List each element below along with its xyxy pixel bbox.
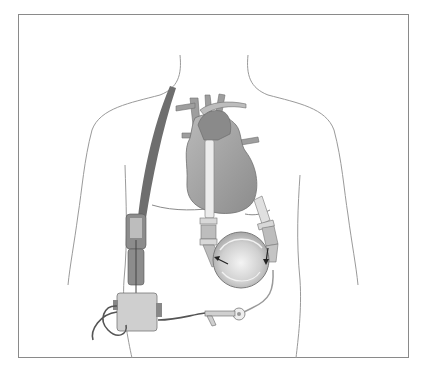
pump bbox=[213, 232, 269, 288]
controller-unit bbox=[113, 293, 162, 331]
connector bbox=[205, 311, 235, 326]
shoulder-strap bbox=[126, 86, 176, 298]
vad-illustration bbox=[0, 0, 426, 377]
controller-cable bbox=[158, 313, 205, 320]
